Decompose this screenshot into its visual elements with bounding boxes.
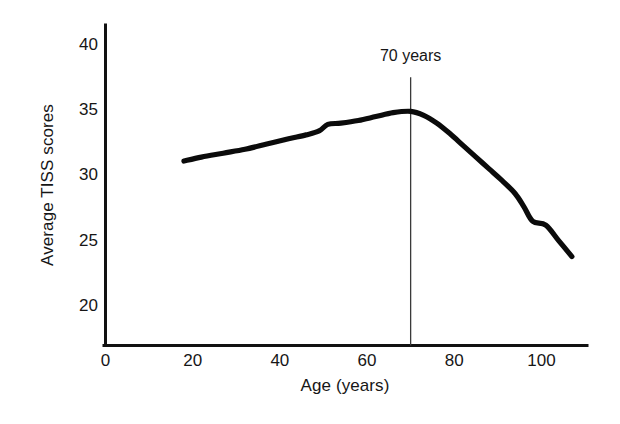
data-series-line	[184, 111, 572, 256]
chart-figure: Average TISS scores Age (years) 20253035…	[0, 0, 620, 424]
plot-area	[0, 0, 620, 424]
